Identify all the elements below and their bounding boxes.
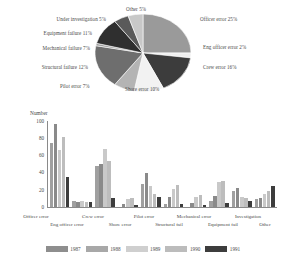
bar xyxy=(134,205,138,207)
bar-group xyxy=(255,121,275,207)
legend-swatch xyxy=(165,246,187,252)
pie-chart-section: Other 5% Under investigation 5% Equipmen… xyxy=(0,0,286,105)
x-label-equipment-fail: Equipment fail xyxy=(196,222,250,227)
legend-item: 1991 xyxy=(205,246,240,252)
legend-label: 1990 xyxy=(190,246,200,252)
bar xyxy=(180,204,184,207)
bar xyxy=(190,203,194,207)
bar xyxy=(85,202,89,207)
pie-label-other: Other 5% xyxy=(126,6,146,12)
bar xyxy=(267,191,271,207)
pie-label-officer-error: Officer error 25% xyxy=(200,16,237,22)
bar xyxy=(54,124,58,207)
pie-label-eng-officer-error: Eng officer error 2% xyxy=(203,44,246,50)
bar-group xyxy=(118,121,138,207)
bar xyxy=(122,204,126,207)
pie-label-under-investigation: Under investigation 5% xyxy=(2,16,106,22)
bar xyxy=(236,188,240,207)
legend-swatch xyxy=(46,246,68,252)
pie-label-equipment-failure: Equipment failure 11% xyxy=(2,30,92,36)
legend-item: 1989 xyxy=(126,246,161,252)
bar xyxy=(145,173,149,207)
pie-chart xyxy=(95,14,191,92)
legend-label: 1989 xyxy=(150,246,160,252)
bar xyxy=(58,150,62,207)
legend-label: 1987 xyxy=(70,246,80,252)
bar xyxy=(232,191,236,207)
bar xyxy=(107,161,111,207)
bar-plot-area xyxy=(48,121,276,207)
bar xyxy=(203,205,207,207)
legend-item: 1990 xyxy=(165,246,200,252)
bar xyxy=(240,197,244,207)
bar xyxy=(209,201,213,207)
pie-label-structural-failure: Structural failure 12% xyxy=(2,64,88,70)
pie-slice-officer-error xyxy=(143,14,191,53)
bar-group xyxy=(95,121,115,207)
bar xyxy=(50,143,54,208)
bar-group xyxy=(209,121,229,207)
bar xyxy=(271,186,275,207)
pie-label-pilot-error: Pilot error 7% xyxy=(60,83,90,89)
y-axis-title: Number xyxy=(30,110,48,116)
bar xyxy=(176,185,180,207)
bar xyxy=(157,197,161,207)
bar-group xyxy=(164,121,184,207)
y-tick-0: 0 xyxy=(28,204,44,210)
bar-group xyxy=(50,121,70,207)
legend-item: 1988 xyxy=(86,246,121,252)
bar-chart-section: Number 100 80 60 40 20 0 Officer error C… xyxy=(0,105,286,235)
bar xyxy=(221,181,225,207)
bar xyxy=(168,197,172,207)
legend-swatch xyxy=(126,246,148,252)
bar xyxy=(103,149,107,207)
bar-group xyxy=(232,121,252,207)
x-label-mechanical-error: Mechanical error xyxy=(165,214,223,219)
bar xyxy=(141,184,145,207)
x-axis-line xyxy=(47,207,277,208)
bar xyxy=(248,201,252,207)
bar xyxy=(217,182,221,207)
y-tick-100: 100 xyxy=(28,118,44,124)
bar xyxy=(172,189,176,207)
bar xyxy=(66,177,70,207)
bar xyxy=(194,197,198,207)
bar xyxy=(244,198,248,207)
x-label-structural-fail: Structural fail xyxy=(142,222,196,227)
pie-chart-svg xyxy=(95,14,191,92)
y-tick-60: 60 xyxy=(28,152,44,158)
y-tick-80: 80 xyxy=(28,135,44,141)
x-label-pilot-error: Pilot error xyxy=(122,214,166,219)
bar xyxy=(153,194,157,207)
bar xyxy=(263,194,267,207)
bar xyxy=(225,203,229,207)
bar xyxy=(126,199,130,207)
legend-label: 1991 xyxy=(230,246,240,252)
bar-group xyxy=(141,121,161,207)
bar xyxy=(259,198,263,207)
pie-label-shore-error: Shore error 10% xyxy=(125,86,159,92)
bar-group xyxy=(186,121,206,207)
pie-label-mechanical-failure: Mechanical failure 7% xyxy=(2,45,90,51)
bar xyxy=(149,186,153,207)
bar xyxy=(80,201,84,207)
pie-label-crew-error: Crew error 16% xyxy=(203,64,237,70)
x-label-other: Other xyxy=(248,222,282,227)
legend-swatch xyxy=(86,246,108,252)
x-label-officer-error: Officer error xyxy=(10,214,62,219)
bar xyxy=(255,199,259,207)
bar xyxy=(111,198,115,207)
x-label-shore-error: Shore error xyxy=(96,222,144,227)
bar xyxy=(164,204,168,207)
bar xyxy=(76,202,80,207)
legend-item: 1987 xyxy=(46,246,81,252)
bar xyxy=(72,201,76,207)
bar xyxy=(62,137,66,207)
bar xyxy=(199,195,203,207)
legend-swatch xyxy=(205,246,227,252)
x-label-crew-error: Crew error xyxy=(70,214,116,219)
chart-page: Other 5% Under investigation 5% Equipmen… xyxy=(0,0,286,266)
bar xyxy=(213,196,217,207)
bar xyxy=(95,166,99,207)
legend: 19871988198919901991 xyxy=(0,243,286,255)
